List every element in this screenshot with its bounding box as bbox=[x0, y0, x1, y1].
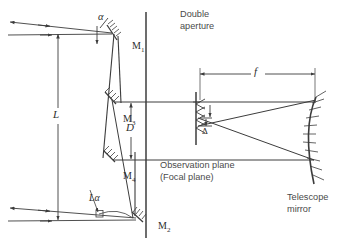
arrow-bottom-upper bbox=[38, 210, 50, 211]
mirror-m2-subscript: 2 bbox=[167, 226, 171, 234]
mirror-m1-subscript: 1 bbox=[141, 46, 145, 54]
converging-ray-upper bbox=[198, 100, 316, 126]
figure-canvas: α M1 M2 M3 M4 L Lα D f Δ Double aperture… bbox=[0, 0, 354, 252]
converging-ray-lower bbox=[198, 118, 314, 160]
telescope-mirror-hatching bbox=[303, 91, 326, 180]
mirror-m1-label: M1 bbox=[122, 28, 144, 66]
double-aperture-label-line1: Double bbox=[180, 9, 209, 20]
alpha-angle-label: α bbox=[98, 11, 104, 23]
dimension-L-label: L bbox=[53, 108, 59, 121]
telescope-mirror-label-line1: Telescope bbox=[287, 192, 328, 203]
telescope-mirror-label-line2: mirror bbox=[287, 204, 311, 215]
observation-plane-label-line2: (Focal plane) bbox=[160, 172, 214, 183]
dimension-D-label: D bbox=[126, 121, 134, 134]
incoming-beam-top-lower bbox=[8, 34, 112, 35]
mirror-m2-label: M2 bbox=[148, 208, 170, 246]
mirror-m2-letter: M bbox=[158, 220, 167, 231]
mirror-m4-subscript: 4 bbox=[132, 176, 136, 184]
incoming-beam-bottom-upper bbox=[10, 208, 136, 218]
delta-label: Δ bbox=[202, 126, 208, 137]
incoming-beam-bottom-lower bbox=[8, 220, 136, 221]
observation-plane-label-line1: Observation plane bbox=[160, 160, 235, 171]
dimension-f-label: f bbox=[254, 65, 257, 78]
mirror-m1-letter: M bbox=[132, 40, 141, 51]
mirror-m4-letter: M bbox=[123, 170, 132, 181]
dimension-L-alpha-label: Lα bbox=[89, 192, 100, 204]
beam-m1-vertical bbox=[118, 36, 121, 103]
double-aperture-label-line2: aperture bbox=[180, 21, 214, 32]
mirror-m4-label: M4 bbox=[113, 158, 135, 196]
